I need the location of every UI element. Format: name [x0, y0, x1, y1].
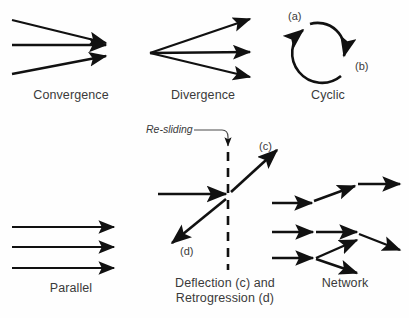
deflection-label-c: (c) — [259, 140, 272, 152]
divergence-arrow-middle — [150, 52, 250, 53]
caption-cyclic: Cyclic — [283, 88, 373, 102]
network-arrow-bottom-fork-down — [316, 259, 357, 273]
cyclic-label-a: (a) — [288, 10, 301, 22]
convergence-arrow-top — [12, 20, 106, 43]
divergence-arrow-bottom — [150, 53, 250, 77]
figure-root: Convergence Divergence Cyclic (a) (b) Pa… — [0, 0, 409, 318]
parallel-arrow-group — [12, 227, 114, 268]
cyclic-label-b: (b) — [355, 60, 368, 72]
cyclic-arrow-group — [292, 23, 345, 83]
cyclic-arc-clockwise — [310, 23, 345, 56]
caption-deflection: Deflection (c) and Retrogression (d) — [150, 276, 300, 305]
retrogression-arrow-d — [172, 199, 226, 243]
convergence-arrow-group — [12, 20, 106, 74]
convergence-arrow-bottom — [12, 56, 106, 74]
re-sliding-annotation: Re-sliding — [146, 123, 193, 135]
network-group — [272, 184, 400, 273]
caption-deflection-line1: Deflection (c) and — [175, 276, 275, 290]
cyclic-arc-counterclockwise — [292, 30, 341, 83]
retrogression-label-d: (d) — [180, 245, 193, 257]
diagram-canvas — [0, 0, 409, 318]
caption-divergence: Divergence — [148, 88, 258, 102]
caption-deflection-line2: Retrogression (d) — [176, 291, 274, 305]
caption-parallel: Parallel — [16, 281, 126, 295]
caption-network: Network — [300, 276, 390, 290]
deflection-arrow-c — [231, 150, 277, 192]
network-arrow-top-2 — [314, 186, 355, 201]
divergence-arrow-group — [150, 19, 250, 77]
caption-convergence: Convergence — [16, 88, 126, 102]
divergence-arrow-top — [150, 19, 250, 53]
network-arrow-middle-3 — [359, 234, 400, 250]
re-sliding-leader-line — [194, 130, 228, 146]
network-arrow-bottom-fork-up — [316, 240, 357, 258]
